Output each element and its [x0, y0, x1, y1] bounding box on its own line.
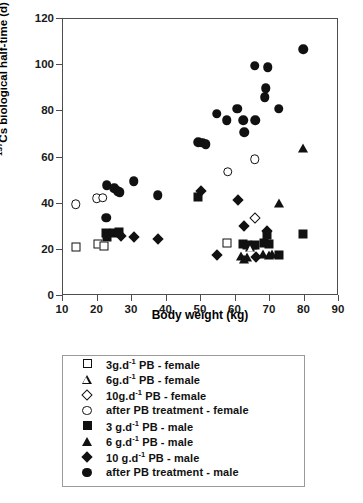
- legend-marker-diamond-open-icon: [80, 387, 94, 403]
- data-point: [212, 109, 222, 119]
- marker-glyph: [83, 421, 92, 430]
- data-point: [298, 229, 307, 238]
- legend-item-label: 10g.d-1 PB - female: [106, 388, 206, 402]
- x-axis-tick-label: 70: [263, 303, 276, 315]
- legend-marker-diamond-filled-icon: [80, 449, 94, 465]
- x-axis-tick-label: 50: [194, 303, 207, 315]
- legend-item-label: after PB treatment - female: [106, 404, 249, 416]
- data-point: [71, 242, 80, 251]
- data-point: [101, 213, 111, 223]
- x-axis-tick: [166, 295, 167, 301]
- y-axis-tick: [56, 249, 62, 250]
- chart-screenshot: 137Cs biological half-time (d) Body weig…: [0, 0, 363, 503]
- legend-label-superscript: -1: [135, 388, 142, 397]
- legend-item: 6 g.d-1 PB - male: [63, 434, 304, 450]
- data-point: [263, 63, 273, 73]
- data-point: [211, 249, 222, 260]
- x-axis-tick-label: 30: [125, 303, 138, 315]
- data-point: [298, 45, 308, 55]
- legend-item: 10g.d-1 PB - female: [63, 387, 304, 403]
- data-point: [222, 116, 232, 126]
- legend-item: 10 g.d-1 PB - male: [63, 449, 304, 465]
- marker-glyph: [83, 359, 92, 368]
- legend-label-superscript: -1: [132, 419, 139, 428]
- legend-item-label: 10 g.d-1 PB - male: [106, 450, 199, 464]
- data-point: [223, 167, 233, 177]
- x-axis-tick: [304, 295, 305, 301]
- data-point: [232, 194, 243, 205]
- data-point: [100, 242, 109, 251]
- marker-glyph: [81, 451, 92, 462]
- x-axis-tick: [62, 295, 63, 301]
- y-axis-title: 137Cs biological half-time (d): [0, 2, 9, 156]
- y-axis-tick: [56, 203, 62, 204]
- data-point: [239, 127, 249, 137]
- y-axis-tick-label: 0: [48, 289, 54, 301]
- x-axis-tick-label: 60: [228, 303, 241, 315]
- legend-item-label: 6g.d-1 PB - female: [106, 372, 200, 386]
- legend-label-superscript: -1: [138, 450, 145, 459]
- data-point: [71, 200, 81, 210]
- legend-item: 3 g.d-1 PB - male: [63, 418, 304, 434]
- data-point: [233, 104, 243, 114]
- y-axis-tick: [56, 157, 62, 158]
- y-axis-tick-label: 60: [41, 151, 54, 163]
- data-point: [265, 240, 274, 249]
- legend-marker-circle-filled-icon: [80, 465, 94, 481]
- marker-glyph: [82, 468, 92, 478]
- x-axis-tick-label: 10: [56, 303, 69, 315]
- data-point: [250, 61, 260, 71]
- data-point: [222, 239, 231, 248]
- y-axis-tick-label: 120: [35, 12, 54, 24]
- legend-label-superscript: -1: [129, 372, 136, 381]
- data-point: [128, 231, 139, 242]
- x-axis-tick: [200, 295, 201, 301]
- data-point: [245, 243, 255, 252]
- data-point: [260, 93, 270, 103]
- y-axis-tick-label: 40: [41, 197, 54, 209]
- data-point: [239, 116, 249, 126]
- legend-item: 6g.d-1 PB - female: [63, 372, 304, 388]
- data-point: [261, 83, 271, 93]
- legend-item-label: 3g.d-1 PB - female: [106, 357, 200, 371]
- data-point: [201, 139, 211, 149]
- data-point: [267, 250, 277, 259]
- y-axis-title-superscript: 137: [0, 143, 4, 156]
- legend-item-label: 3 g.d-1 PB - male: [106, 419, 193, 433]
- x-axis-tick-label: 80: [297, 303, 310, 315]
- legend-item: 3g.d-1 PB - female: [63, 356, 304, 372]
- legend-marker-circle-open-icon: [80, 403, 94, 419]
- x-axis-tick: [269, 295, 270, 301]
- legend: 3g.d-1 PB - female6g.d-1 PB - female10g.…: [62, 355, 305, 487]
- y-axis-tick: [56, 110, 62, 111]
- data-point: [249, 212, 260, 223]
- x-axis-tick: [131, 295, 132, 301]
- legend-item: after PB treatment - male: [63, 465, 304, 481]
- legend-item: after PB treatment - female: [63, 403, 304, 419]
- x-axis-tick-label: 90: [332, 303, 345, 315]
- scatter-chart: 137Cs biological half-time (d) Body weig…: [0, 0, 363, 345]
- y-axis-tick-label: 80: [41, 104, 54, 116]
- data-point: [153, 191, 163, 201]
- data-point: [274, 104, 284, 114]
- legend-label-superscript: -1: [132, 434, 139, 443]
- data-point: [298, 144, 308, 153]
- y-axis-tick-label: 20: [41, 243, 54, 255]
- x-axis-tick: [97, 295, 98, 301]
- marker-glyph: [82, 375, 92, 384]
- x-axis-tick: [338, 295, 339, 301]
- y-axis-tick: [56, 64, 62, 65]
- y-axis-tick-label: 100: [35, 58, 54, 70]
- x-axis-tick-label: 40: [159, 303, 172, 315]
- legend-marker-triangle-filled-icon: [80, 434, 94, 450]
- data-point: [129, 177, 139, 187]
- data-point: [152, 233, 163, 244]
- legend-label-superscript: -1: [129, 357, 136, 366]
- marker-glyph: [82, 437, 92, 446]
- marker-glyph: [82, 406, 92, 416]
- legend-item-label: 6 g.d-1 PB - male: [106, 434, 193, 448]
- y-axis-title-text: Cs biological half-time (d): [0, 2, 9, 143]
- legend-marker-triangle-open-icon: [80, 372, 94, 388]
- x-axis-tick: [235, 295, 236, 301]
- data-point: [115, 187, 125, 197]
